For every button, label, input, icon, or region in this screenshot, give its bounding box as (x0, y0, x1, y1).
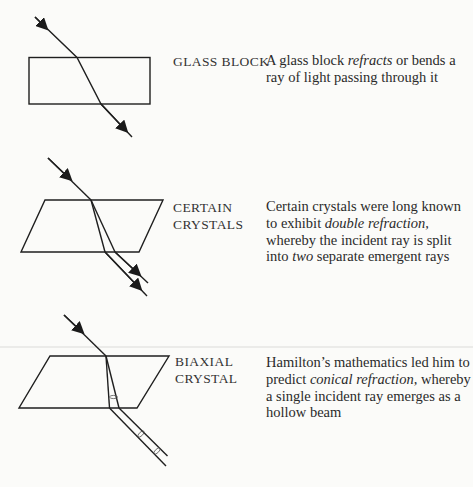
label-glass-block: GLASS BLOCK (173, 53, 269, 70)
description-double-refraction: Certain crystals were long known to exhi… (266, 198, 471, 265)
hollow-beam-edge-1 (110, 408, 167, 466)
label-line: CERTAIN (173, 199, 243, 216)
light-ray (35, 17, 132, 137)
label-certain-crystals: CERTAIN CRYSTALS (173, 199, 243, 233)
desc-text: A glass block (266, 52, 348, 68)
incident-ray (48, 158, 91, 200)
glass-block-diagram (29, 17, 150, 137)
crystal-parallelogram (21, 200, 163, 252)
label-biaxial-crystal: BIAXIAL CRYSTAL (175, 353, 237, 387)
conical-refraction-diagram (19, 315, 169, 466)
crystal-parallelogram (19, 356, 169, 408)
desc-italic: refracts (348, 52, 393, 68)
label-line: CRYSTAL (175, 370, 237, 387)
label-line: CRYSTALS (173, 216, 243, 233)
desc-text: separate emergent rays (313, 248, 449, 264)
incident-ray (64, 315, 106, 356)
description-glass-block: A glass block refracts or bends a ray of… (266, 52, 471, 86)
desc-italic: conical refraction, (310, 371, 417, 387)
double-refraction-diagram (21, 158, 163, 296)
label-line: GLASS BLOCK (173, 53, 269, 70)
description-conical-refraction: Hamilton’s mathematics led him to predic… (266, 354, 471, 421)
desc-italic: double refraction, (325, 215, 429, 231)
desc-italic: two (292, 248, 313, 264)
label-line: BIAXIAL (175, 353, 237, 370)
